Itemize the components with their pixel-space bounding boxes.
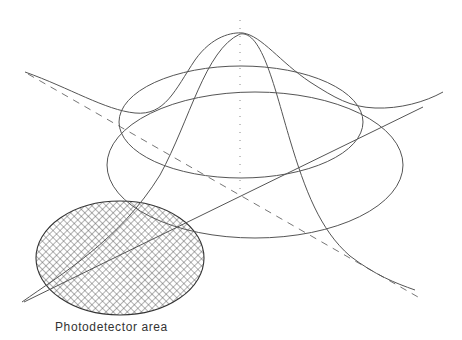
gaussian-profile-dashed-axis [25, 33, 443, 113]
upper-contour-ellipse [119, 66, 363, 178]
solid-axis [24, 107, 423, 302]
photodetector-label: Photodetector area [55, 320, 168, 334]
photodetector-area [36, 201, 204, 315]
beam-profile-diagram [0, 0, 462, 340]
